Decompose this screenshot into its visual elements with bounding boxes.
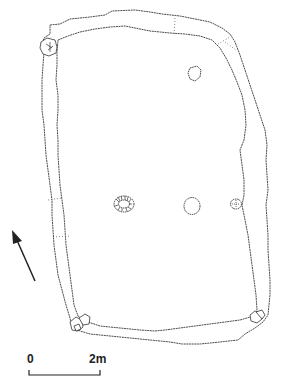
north-arrow <box>12 230 35 281</box>
posthole-1 <box>114 196 134 212</box>
corner-stones-se <box>250 310 265 323</box>
scale-bar-start-label: 0 <box>27 352 34 366</box>
scale-bar <box>29 370 100 375</box>
enclosure-outer-wall <box>42 10 270 344</box>
pit-ne <box>188 66 201 81</box>
enclosure-inner-wall <box>56 26 257 331</box>
wall-division-dotted-west-1 <box>48 198 62 200</box>
wall-division-dotted-west-2 <box>53 236 70 237</box>
site-plan-drawing <box>0 0 284 389</box>
wall-division-dotted-north <box>174 18 175 35</box>
posthole-2 <box>184 198 200 215</box>
posthole-3 <box>231 199 242 209</box>
corner-stones-sw <box>70 314 90 331</box>
corner-stones-nw <box>40 38 57 56</box>
scale-bar-end-label: 2m <box>89 352 106 366</box>
